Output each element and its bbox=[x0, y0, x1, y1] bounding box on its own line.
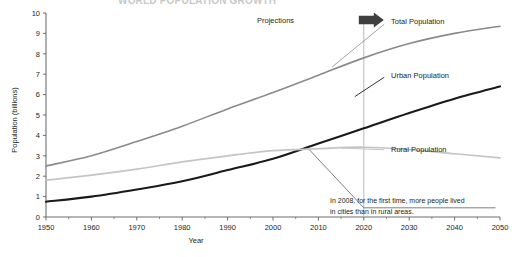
x-axis-title: Year bbox=[188, 236, 204, 245]
chart-axes bbox=[46, 13, 500, 217]
x-tick-label: 2040 bbox=[446, 223, 463, 232]
x-tick-label: 2000 bbox=[265, 223, 282, 232]
chart-series-group bbox=[46, 26, 500, 201]
y-tick-label: 0 bbox=[36, 213, 40, 222]
y-tick-label: 7 bbox=[36, 70, 40, 79]
series-label-urban-population: Urban Population bbox=[391, 71, 449, 80]
chart-title: WORLD POPULATION GROWTH bbox=[118, 0, 378, 4]
y-tick-label: 8 bbox=[36, 50, 40, 59]
series-labels-group: Total PopulationUrban PopulationRural Po… bbox=[391, 17, 449, 155]
x-tick-label: 2050 bbox=[492, 223, 509, 232]
y-tick-label: 4 bbox=[36, 131, 40, 140]
y-tick-label: 1 bbox=[36, 192, 40, 201]
chart-root: WORLD POPULATION GROWTH 012345678910 195… bbox=[0, 0, 512, 257]
x-tick-label: 2030 bbox=[401, 223, 418, 232]
population-growth-line-chart: 012345678910 195019601970198019902000201… bbox=[0, 0, 512, 257]
projections-label: Projections bbox=[257, 16, 294, 25]
annotation-note-line2: in cities than in rural areas. bbox=[330, 208, 414, 215]
annotation-note-line1: In 2008, for the first time, more people… bbox=[330, 197, 465, 205]
y-tick-label: 5 bbox=[36, 111, 40, 120]
y-axis-ticks: 012345678910 bbox=[32, 9, 46, 222]
y-tick-label: 6 bbox=[36, 90, 40, 99]
projections-arrow-icon bbox=[359, 13, 384, 28]
x-tick-label: 1980 bbox=[174, 223, 191, 232]
x-tick-label: 1990 bbox=[219, 223, 236, 232]
series-label-total-population: Total Population bbox=[391, 17, 444, 26]
y-tick-label: 9 bbox=[36, 29, 40, 38]
y-tick-label: 3 bbox=[36, 152, 40, 161]
series-label-rural-population: Rural Population bbox=[391, 145, 446, 154]
x-tick-label: 2010 bbox=[310, 223, 327, 232]
x-tick-label: 2020 bbox=[355, 223, 372, 232]
series-line-urban-population bbox=[46, 86, 500, 201]
x-tick-label: 1970 bbox=[128, 223, 145, 232]
y-tick-label: 2 bbox=[36, 172, 40, 181]
x-axis-ticks: 1950196019701980199020002010202020302040… bbox=[38, 217, 509, 232]
y-axis-title: Population (billions) bbox=[10, 87, 19, 153]
y-tick-label: 10 bbox=[32, 9, 40, 18]
x-tick-label: 1960 bbox=[83, 223, 100, 232]
x-tick-label: 1950 bbox=[38, 223, 55, 232]
